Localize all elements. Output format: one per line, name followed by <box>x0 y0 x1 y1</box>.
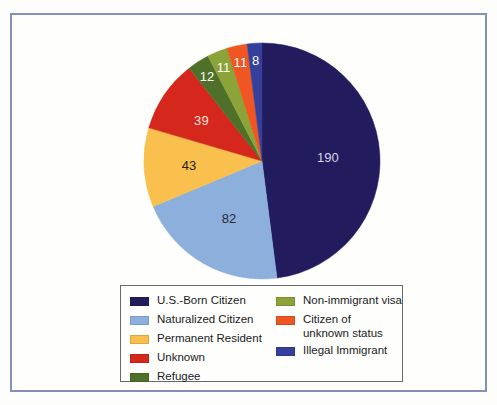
pie-data-label: 82 <box>222 212 237 225</box>
pie-data-label: 12 <box>200 69 215 82</box>
legend-item-label: U.S.-Born Citizen <box>157 294 246 308</box>
pie-data-label: 11 <box>234 55 248 68</box>
legend-column: U.S.-Born CitizenNaturalized CitizenPerm… <box>121 286 272 381</box>
pie-chart: 1908243391211118 <box>143 42 381 280</box>
legend-item-label: Refugee <box>157 370 200 384</box>
legend-item[interactable]: Unknown <box>130 351 272 366</box>
legend-swatch-icon <box>130 335 149 344</box>
legend-item[interactable]: U.S.-Born Citizen <box>130 294 272 309</box>
legend-item[interactable]: Non-immigrant visa <box>276 294 402 309</box>
pie-data-label: 43 <box>182 159 197 172</box>
pie-slice-group <box>144 43 380 279</box>
legend-swatch-icon <box>276 316 295 325</box>
legend-item-label: Illegal Immigrant <box>303 344 387 358</box>
chart-frame: 1908243391211118 U.S.-Born CitizenNatura… <box>10 13 487 392</box>
legend-swatch-icon <box>276 297 295 306</box>
legend-item[interactable]: Refugee <box>130 370 272 385</box>
pie-chart-svg <box>143 42 381 280</box>
legend-columns: U.S.-Born CitizenNaturalized CitizenPerm… <box>121 286 402 381</box>
legend: U.S.-Born CitizenNaturalized CitizenPerm… <box>120 285 403 382</box>
legend-swatch-icon <box>130 316 149 325</box>
legend-item-label: Naturalized Citizen <box>157 313 254 327</box>
legend-item[interactable]: Citizen of unknown status <box>276 313 402 340</box>
legend-item[interactable]: Permanent Resident <box>130 332 272 347</box>
legend-item[interactable]: Naturalized Citizen <box>130 313 272 328</box>
legend-swatch-icon <box>130 373 149 382</box>
pie-data-label: 190 <box>317 150 339 163</box>
legend-item-label: Unknown <box>157 351 205 365</box>
scanned-page: 1908243391211118 U.S.-Born CitizenNatura… <box>0 0 497 405</box>
legend-column: Non-immigrant visaCitizen of unknown sta… <box>272 286 402 381</box>
pie-data-label: 11 <box>217 61 231 74</box>
legend-swatch-icon <box>130 297 149 306</box>
pie-data-label: 39 <box>194 114 209 127</box>
legend-swatch-icon <box>276 347 295 356</box>
legend-swatch-icon <box>130 354 149 363</box>
legend-item-label: Citizen of unknown status <box>303 313 383 340</box>
pie-data-label: 8 <box>252 53 259 66</box>
legend-item-label: Permanent Resident <box>157 332 262 346</box>
legend-item[interactable]: Illegal Immigrant <box>276 344 402 359</box>
legend-item-label: Non-immigrant visa <box>303 294 402 308</box>
